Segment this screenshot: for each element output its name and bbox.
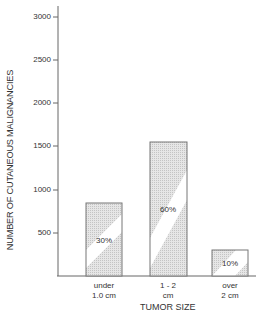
x-tick-line2: cm xyxy=(143,291,193,301)
x-tick-line1: over xyxy=(205,281,255,291)
x-tick-line2: 2 cm xyxy=(205,291,255,301)
y-tick-2000: 2000 xyxy=(21,98,51,107)
y-tick-1500: 1500 xyxy=(21,141,51,150)
chart-plot xyxy=(0,0,261,323)
y-tick-2500: 2500 xyxy=(21,55,51,64)
x-tick-line1: under xyxy=(79,281,129,291)
bar-label-60: 60% xyxy=(150,205,186,214)
y-ticks xyxy=(53,17,58,233)
x-tick-under-1cm: under 1.0 cm xyxy=(79,281,129,301)
y-tick-3000: 3000 xyxy=(21,12,51,21)
x-tick-over-2cm: over 2 cm xyxy=(205,281,255,301)
bar-label-10: 10% xyxy=(212,259,248,268)
x-tick-line2: 1.0 cm xyxy=(79,291,129,301)
x-axis-label: TUMOR SIZE xyxy=(140,302,196,312)
y-tick-500: 500 xyxy=(21,228,51,237)
x-tick-line1: 1 - 2 xyxy=(143,281,193,291)
y-tick-1000: 1000 xyxy=(21,185,51,194)
x-tick-1-2cm: 1 - 2 cm xyxy=(143,281,193,301)
bar-label-30: 30% xyxy=(86,236,122,245)
